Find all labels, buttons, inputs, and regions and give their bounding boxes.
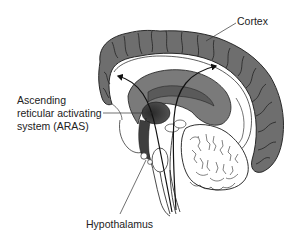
hypothalamus-leader-line xyxy=(120,160,146,214)
label-aras-line2: reticular activating xyxy=(17,107,102,120)
label-hypothalamus: Hypothalamus xyxy=(86,218,153,231)
label-cortex: Cortex xyxy=(237,15,268,28)
cerebellum xyxy=(181,125,248,190)
brainstem xyxy=(139,118,186,216)
label-aras: Ascending reticular activating system (A… xyxy=(17,94,102,133)
cortex-leader-line xyxy=(206,23,236,41)
label-aras-line3: system (ARAS) xyxy=(17,120,102,133)
label-aras-line1: Ascending xyxy=(17,94,102,107)
